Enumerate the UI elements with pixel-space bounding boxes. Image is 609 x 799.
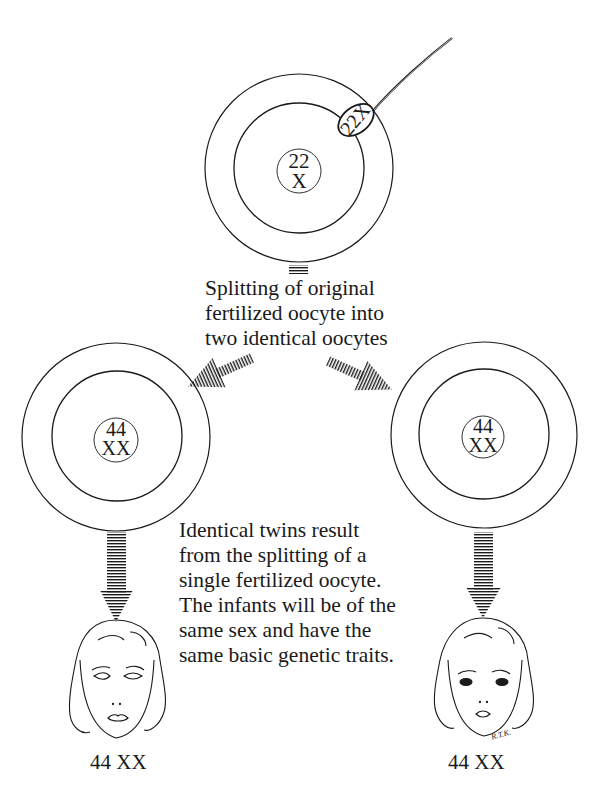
split-caption-line: Splitting of original [205, 276, 388, 301]
top-nucleus-label: 22 X [279, 151, 319, 191]
twin-diagram-artwork [0, 0, 609, 799]
twins-caption-line: single fertilized oocyte. [179, 568, 396, 593]
left-nucleus-sex-chromosomes: XX [96, 439, 136, 458]
twins-caption: Identical twins result from the splittin… [179, 518, 396, 668]
left-down-arrow-icon [100, 532, 133, 622]
left-infant-karyotype-label: 44 XX [90, 750, 147, 775]
top-nucleus-autosomes: 22 [279, 151, 319, 171]
right-infant-karyotype-label: 44 XX [448, 750, 505, 775]
split-caption-line: fertilized oocyte into [205, 301, 388, 326]
right-nucleus-label: 44 XX [463, 417, 503, 455]
right-split-arrow-icon [321, 346, 398, 404]
twins-caption-line: The infants will be of the [179, 593, 396, 618]
split-caption-line: two identical oocytes [205, 326, 388, 351]
twins-caption-line: from the splitting of a [179, 543, 396, 568]
split-caption: Splitting of original fertilized oocyte … [205, 276, 388, 351]
left-split-arrow-icon [182, 343, 259, 401]
left-infant-face-icon [69, 620, 165, 738]
top-nucleus-sex-chromosome: X [279, 171, 319, 191]
twins-caption-line: same basic genetic traits. [179, 643, 396, 668]
split-connector [289, 265, 308, 274]
twins-caption-line: same sex and have the [179, 618, 396, 643]
left-nucleus-label: 44 XX [96, 420, 136, 458]
right-nucleus-sex-chromosomes: XX [463, 436, 503, 455]
twins-caption-line: Identical twins result [179, 518, 396, 543]
right-infant-face-icon [434, 618, 533, 736]
right-down-arrow-icon [466, 532, 501, 618]
